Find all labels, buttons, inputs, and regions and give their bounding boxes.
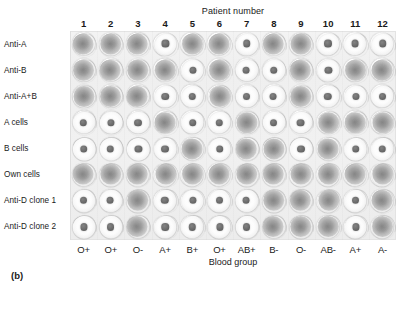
well (151, 83, 178, 109)
well (151, 214, 178, 240)
well (287, 109, 314, 135)
well (233, 83, 260, 109)
well (124, 162, 151, 188)
cell-button (344, 190, 366, 212)
cell-button (371, 85, 393, 107)
patient-number-axis-title: Patient number (70, 6, 396, 17)
blood-group-label: B- (260, 243, 287, 257)
agglutination-carpet (263, 190, 284, 211)
well (206, 83, 233, 109)
well (314, 109, 341, 135)
well (151, 109, 178, 135)
row-label-anti-a: Anti-A (4, 32, 68, 58)
well (233, 136, 260, 162)
cell-button (372, 33, 394, 55)
well (260, 188, 287, 214)
cell-button (100, 138, 122, 160)
well (179, 136, 206, 162)
blood-group-label: A+ (342, 243, 369, 257)
agglutination-carpet (73, 33, 94, 54)
blood-group-label: O- (124, 243, 151, 257)
column-number: 2 (97, 17, 124, 30)
cell-button (236, 85, 258, 107)
cell-button (73, 216, 95, 238)
well (342, 57, 369, 83)
agglutination-carpet (345, 59, 366, 80)
cell-button (181, 85, 203, 107)
column-number: 10 (315, 17, 342, 30)
agglutination-carpet (128, 190, 149, 211)
agglutination-carpet (127, 216, 148, 237)
well (206, 162, 233, 188)
well (233, 57, 260, 83)
agglutination-carpet (155, 164, 176, 185)
agglutination-carpet (100, 33, 121, 54)
agglutination-carpet (73, 59, 94, 80)
cell-button (154, 216, 176, 238)
cell-button (182, 59, 204, 81)
column-number-strip: 123456789101112 (70, 17, 396, 30)
cell-button (263, 112, 285, 134)
well (206, 136, 233, 162)
cell-button (235, 59, 257, 81)
well (287, 31, 314, 57)
agglutination-carpet (127, 33, 148, 54)
well (287, 162, 314, 188)
agglutination-carpet (263, 164, 284, 185)
cell-button (317, 33, 339, 55)
blood-group-axis-title: Blood group (70, 257, 396, 268)
agglutination-carpet (154, 112, 175, 133)
agglutination-carpet (74, 86, 95, 107)
column-number: 11 (342, 17, 369, 30)
agglutination-carpet (317, 216, 338, 237)
well (233, 188, 260, 214)
well (233, 31, 260, 57)
agglutination-carpet (127, 164, 148, 185)
agglutination-carpet (182, 33, 203, 54)
well (70, 188, 97, 214)
agglutination-carpet (290, 59, 311, 80)
well (369, 136, 396, 162)
well (97, 162, 124, 188)
well (314, 83, 341, 109)
cell-button (99, 190, 121, 212)
agglutination-carpet (291, 164, 312, 185)
well (314, 214, 341, 240)
agglutination-carpet (128, 59, 149, 80)
column-number: 4 (152, 17, 179, 30)
cell-button (235, 190, 257, 212)
well (260, 214, 287, 240)
microplate (70, 31, 396, 240)
well (124, 214, 151, 240)
agglutination-carpet (372, 216, 393, 237)
blood-group-label: A+ (152, 243, 179, 257)
well (287, 83, 314, 109)
blood-group-label: O+ (206, 243, 233, 257)
agglutination-carpet (181, 139, 202, 160)
well (342, 136, 369, 162)
blood-group-label: A- (369, 243, 396, 257)
well (179, 188, 206, 214)
well (124, 188, 151, 214)
agglutination-carpet (100, 164, 121, 185)
agglutination-carpet (371, 190, 392, 211)
agglutination-carpet (209, 59, 230, 80)
blood-group-label: O+ (97, 243, 124, 257)
well (70, 83, 97, 109)
blood-group-strip: O+O+O-A+B+O+AB+B-O-AB-A+A- (70, 243, 396, 257)
well (287, 188, 314, 214)
row-label-anti-d-clone-2: Anti-D clone 2 (4, 214, 68, 240)
well (369, 83, 396, 109)
well (97, 109, 124, 135)
cell-button (73, 138, 95, 160)
well (97, 188, 124, 214)
blood-group-label: AB- (315, 243, 342, 257)
well (369, 57, 396, 83)
well (151, 31, 178, 57)
agglutination-carpet (291, 86, 312, 107)
column-number: 6 (206, 17, 233, 30)
agglutination-carpet (236, 139, 257, 160)
row-label-a-cells: A cells (4, 110, 68, 136)
well (124, 109, 151, 135)
well (206, 57, 233, 83)
